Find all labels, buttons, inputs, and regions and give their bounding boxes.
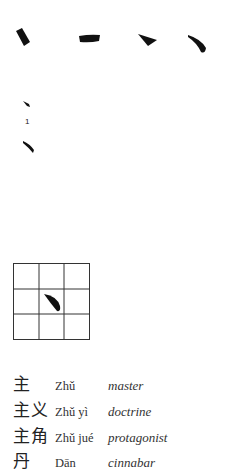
stroke-step-dot: [22, 100, 32, 108]
vocab-meaning: doctrine: [108, 404, 151, 420]
vocab-row: 主角 Zhǔ jué protagonist: [13, 422, 167, 444]
vocab-hanzi: 主角: [13, 422, 55, 447]
long-dot-icon: [22, 140, 36, 154]
vocab-row: 丹 Dān cinnabar: [13, 447, 155, 469]
vocab-hanzi: 丹: [13, 447, 55, 469]
stroke-step-label: 1: [25, 117, 29, 126]
vocab-meaning: master: [108, 378, 143, 394]
dot-stroke-variant-1: [14, 27, 32, 49]
vocab-meaning: protagonist: [108, 430, 167, 446]
dot-stroke-variant-3: [137, 32, 159, 48]
vocab-hanzi: 主: [13, 370, 55, 395]
horizontal-dot-icon: [78, 33, 102, 45]
curved-dot-icon: [187, 33, 209, 55]
vocab-hanzi: 主义: [13, 396, 55, 421]
practice-grid: [13, 263, 90, 340]
vocab-pinyin: Zhǔ yì: [55, 405, 108, 420]
stroke-step-long-dot: [22, 140, 36, 154]
vocab-pinyin: Dān: [55, 456, 108, 469]
vocab-pinyin: Zhǔ: [55, 379, 108, 394]
vocab-row: 主义 Zhǔ yì doctrine: [13, 396, 151, 418]
triangle-dot-icon: [137, 32, 159, 48]
vocab-pinyin: Zhǔ jué: [55, 431, 108, 446]
dot-stroke-variant-4: [187, 33, 209, 55]
vocab-meaning: cinnabar: [108, 455, 155, 469]
grid-lines: [13, 263, 90, 340]
dot-stroke-variant-2: [78, 33, 102, 45]
vocab-row: 主 Zhǔ master: [13, 370, 143, 392]
grid-dot-stroke: [44, 294, 60, 311]
small-dot-icon: [22, 100, 32, 108]
dot-stroke-icon: [14, 27, 32, 49]
